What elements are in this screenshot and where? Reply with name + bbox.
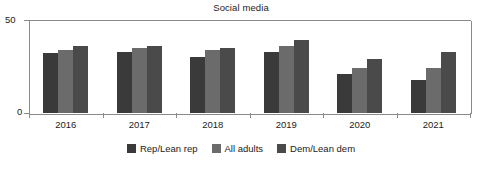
bar-group-2016	[43, 20, 88, 113]
bar-group-2020	[337, 20, 382, 113]
bar-2018-dem-lean-dem[interactable]	[220, 48, 235, 113]
bar-groups-layer	[29, 20, 470, 113]
bar-2016-dem-lean-dem[interactable]	[73, 46, 88, 113]
legend-label: Dem/Lean dem	[290, 143, 355, 154]
legend-label: Rep/Lean rep	[140, 143, 198, 154]
bar-group-2021	[411, 20, 456, 113]
legend-swatch-icon	[277, 144, 286, 153]
bar-2020-dem-lean-dem[interactable]	[367, 59, 382, 113]
legend-item-all-adults[interactable]: All adults	[212, 143, 264, 154]
y-axis-label-min: 0	[17, 106, 22, 117]
x-tick-mark-3	[250, 113, 251, 118]
bar-2016-rep-lean-rep[interactable]	[43, 53, 58, 113]
x-tick-mark-0	[29, 113, 30, 118]
bar-2018-rep-lean-rep[interactable]	[190, 57, 205, 113]
bar-2017-dem-lean-dem[interactable]	[147, 46, 162, 113]
bar-2021-dem-lean-dem[interactable]	[441, 52, 456, 113]
bar-2020-rep-lean-rep[interactable]	[337, 74, 352, 113]
legend-swatch-icon	[127, 144, 136, 153]
x-tick-label-2017: 2017	[103, 119, 177, 130]
chart-title: Social media	[0, 2, 482, 13]
x-tick-label-2020: 2020	[323, 119, 397, 130]
bar-2021-all-adults[interactable]	[426, 68, 441, 113]
bar-2019-all-adults[interactable]	[279, 46, 294, 113]
bar-group-2018	[190, 20, 235, 113]
bar-2016-all-adults[interactable]	[58, 50, 73, 113]
chart-container: Social media 50 0 2016201720182019202020…	[0, 0, 482, 171]
x-tick-mark-5	[397, 113, 398, 118]
bar-group-2017	[117, 20, 162, 113]
bar-2021-rep-lean-rep[interactable]	[411, 80, 426, 113]
bar-2020-all-adults[interactable]	[352, 68, 367, 113]
x-tick-label-2018: 2018	[176, 119, 250, 130]
bar-2017-all-adults[interactable]	[132, 48, 147, 113]
legend-swatch-icon	[212, 144, 221, 153]
bar-group-2019	[264, 20, 309, 113]
x-tick-label-2016: 2016	[29, 119, 103, 130]
legend-item-dem-lean-dem[interactable]: Dem/Lean dem	[277, 143, 355, 154]
bar-2019-rep-lean-rep[interactable]	[264, 52, 279, 113]
x-tick-mark-2	[176, 113, 177, 118]
plot-right-edge	[471, 21, 472, 114]
x-tick-label-2019: 2019	[250, 119, 324, 130]
x-tick-label-2021: 2021	[397, 119, 471, 130]
x-tick-mark-4	[323, 113, 324, 118]
bar-2019-dem-lean-dem[interactable]	[294, 40, 309, 113]
x-tick-mark-end	[470, 113, 471, 118]
x-tick-mark-1	[103, 113, 104, 118]
bar-2017-rep-lean-rep[interactable]	[117, 52, 132, 113]
legend-item-rep-lean-rep[interactable]: Rep/Lean rep	[127, 143, 198, 154]
legend-label: All adults	[225, 143, 264, 154]
chart-legend: Rep/Lean repAll adultsDem/Lean dem	[0, 143, 482, 154]
y-axis-label-max: 50	[5, 14, 16, 25]
bar-2018-all-adults[interactable]	[205, 50, 220, 113]
